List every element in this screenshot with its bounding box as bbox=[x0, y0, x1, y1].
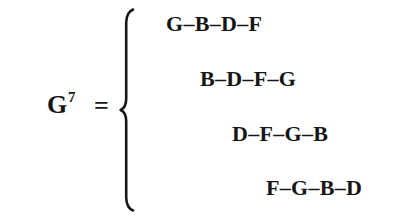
list-item: D–F–G–B bbox=[232, 123, 328, 145]
list-item: G–B–D–F bbox=[166, 13, 262, 35]
list-item: B–D–F–G bbox=[200, 68, 296, 90]
list-item: F–G–B–D bbox=[266, 177, 362, 199]
g7-inversions-figure: G 7 = G–B–D–F B–D–F–G D–F–G–B F–G–B–D bbox=[0, 0, 402, 220]
inversion-list: G–B–D–F B–D–F–G D–F–G–B F–G–B–D bbox=[0, 0, 402, 220]
